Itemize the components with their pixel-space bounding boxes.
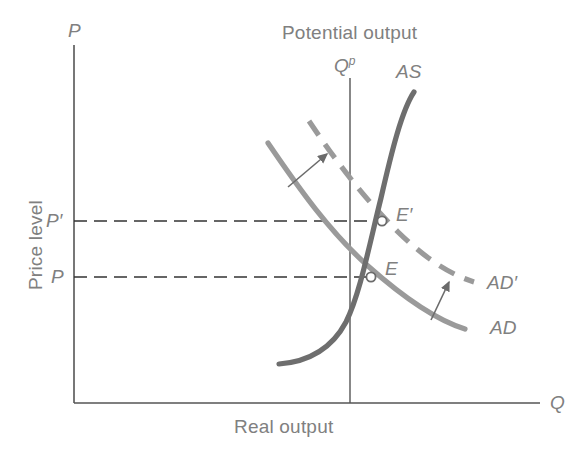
ad-curve bbox=[268, 143, 465, 329]
price-tick-label-p: P bbox=[51, 267, 64, 286]
equilibrium-point-e-prime bbox=[377, 216, 386, 225]
price-tick-label-p-prime: P′ bbox=[46, 211, 62, 230]
ad-prime-curve-label: AD′ bbox=[487, 273, 517, 292]
x-axis-symbol: Q bbox=[550, 393, 565, 412]
x-axis-title: Real output bbox=[234, 417, 333, 436]
equilibrium-point-e bbox=[366, 272, 375, 281]
shift-arrow-lower bbox=[431, 282, 449, 320]
y-axis-title: Price level bbox=[26, 200, 45, 290]
diagram-canvas bbox=[0, 0, 580, 451]
ad-curve-label: AD bbox=[490, 318, 516, 337]
as-curve-label: AS bbox=[396, 62, 421, 81]
equilibrium-label-e: E bbox=[385, 259, 398, 278]
shift-arrow-upper bbox=[288, 154, 327, 187]
potential-output-symbol-base: Q bbox=[334, 55, 349, 76]
equilibrium-label-e-prime: E′ bbox=[396, 205, 412, 224]
potential-output-symbol: Qp bbox=[334, 55, 355, 75]
ad-as-diagram-figure: Potential output P Q Price level Real ou… bbox=[0, 0, 580, 451]
y-axis-symbol: P bbox=[68, 21, 81, 40]
as-curve bbox=[279, 92, 414, 364]
potential-output-title: Potential output bbox=[282, 23, 417, 42]
potential-output-symbol-superscript: p bbox=[349, 54, 356, 68]
